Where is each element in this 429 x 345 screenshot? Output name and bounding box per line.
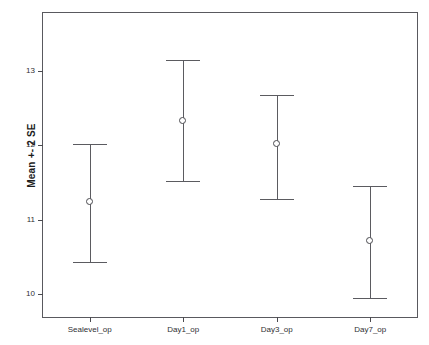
- x-tick-mark: [90, 317, 91, 322]
- x-tick-label: Day1_op: [141, 325, 225, 334]
- y-tick-label: 12: [17, 140, 35, 149]
- y-tick-mark: [38, 145, 43, 146]
- x-tick-mark: [183, 317, 184, 322]
- x-tick-label: Day3_op: [235, 325, 319, 334]
- y-tick-mark: [38, 71, 43, 72]
- lower-cap: [73, 262, 107, 263]
- upper-cap: [260, 95, 294, 96]
- errorbar-chart: Mean +- 2 SE 10111213 Sealevel_opDay1_op…: [0, 0, 429, 345]
- upper-cap: [73, 144, 107, 145]
- y-tick-label: 10: [17, 289, 35, 298]
- mean-marker: [179, 117, 186, 124]
- y-tick-mark: [38, 294, 43, 295]
- x-tick-mark: [370, 317, 371, 322]
- mean-marker: [86, 198, 93, 205]
- lower-cap: [166, 181, 200, 182]
- mean-marker: [273, 140, 280, 147]
- upper-cap: [166, 60, 200, 61]
- lower-cap: [353, 298, 387, 299]
- mean-marker: [366, 237, 373, 244]
- x-tick-mark: [277, 317, 278, 322]
- x-tick-label: Sealevel_op: [48, 325, 132, 334]
- x-tick-label: Day7_op: [328, 325, 412, 334]
- y-tick-mark: [38, 220, 43, 221]
- y-axis-title: Mean +- 2 SE: [26, 101, 37, 211]
- y-tick-label: 11: [17, 215, 35, 224]
- whisker-line: [277, 95, 278, 199]
- lower-cap: [260, 199, 294, 200]
- plot-area: 10111213 Sealevel_opDay1_opDay3_opDay7_o…: [42, 12, 418, 318]
- upper-cap: [353, 186, 387, 187]
- y-tick-label: 13: [17, 66, 35, 75]
